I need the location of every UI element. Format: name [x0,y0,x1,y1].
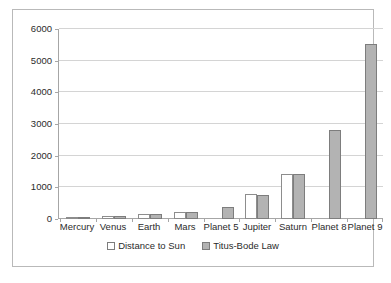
x-axis-tick-label: Planet 5 [203,222,239,232]
y-axis-tick-label: 6000 [12,24,52,34]
y-axis-tick-label: 5000 [12,56,52,66]
x-axis-tick-label: Saturn [275,222,311,232]
y-axis-tick-mark [55,29,58,30]
bar-group [275,29,311,219]
plot-inner [58,29,383,219]
bar[interactable] [138,214,150,219]
bar[interactable] [365,44,377,219]
x-axis-tick-label: Earth [131,222,167,232]
legend-entry[interactable]: Titus-Bode Law [202,241,279,251]
chart-legend: Distance to SunTitus-Bode Law [13,241,373,251]
bar-group [132,29,168,219]
x-axis-tick-label: Mars [167,222,203,232]
x-axis-tick-label: Mercury [59,222,95,232]
y-axis-tick-label: 2000 [12,151,52,161]
bar[interactable] [102,216,114,219]
y-axis-tick-label: 0 [12,214,52,224]
bar-group [96,29,132,219]
filled-square-icon [202,242,210,250]
bar[interactable] [281,174,293,219]
y-axis-tick-mark [55,187,58,188]
y-axis-tick-mark [55,124,58,125]
y-axis-tick-mark [55,156,58,157]
bar-group [60,29,96,219]
bar[interactable] [78,217,90,219]
x-axis-tick-label: Planet 9 [347,222,383,232]
bar-group [311,29,347,219]
x-axis-tick-label: Jupiter [239,222,275,232]
bar[interactable] [174,212,186,219]
bar-group [204,29,240,219]
y-axis-tick-mark [55,61,58,62]
y-axis-tick-label: 3000 [12,119,52,129]
bars-layer [60,29,383,219]
bar[interactable] [150,214,162,219]
bar[interactable] [329,130,341,219]
y-axis-tick-label: 4000 [12,88,52,98]
bar-group [168,29,204,219]
plot-area: 0100020003000400050006000 [58,29,383,219]
x-axis-tick-label: Planet 8 [311,222,347,232]
bar-group [347,29,383,219]
bar-group [239,29,275,219]
legend-entry[interactable]: Distance to Sun [107,241,185,251]
legend-label: Titus-Bode Law [213,241,279,251]
hollow-square-icon [107,242,115,250]
y-axis-tick-mark [55,219,58,220]
bar[interactable] [66,217,78,219]
bar[interactable] [114,216,126,219]
chart-frame: 0100020003000400050006000 MercuryVenusEa… [12,9,374,267]
bar[interactable] [222,207,234,220]
bar[interactable] [257,195,269,219]
bar[interactable] [293,174,305,219]
bar[interactable] [245,194,257,219]
legend-label: Distance to Sun [118,241,185,251]
x-axis-tick-labels: MercuryVenusEarthMarsPlanet 5JupiterSatu… [59,222,383,232]
y-axis-tick-mark [55,92,58,93]
y-axis-tick-label: 1000 [12,183,52,193]
x-axis-tick-label: Venus [95,222,131,232]
bar[interactable] [186,212,198,219]
